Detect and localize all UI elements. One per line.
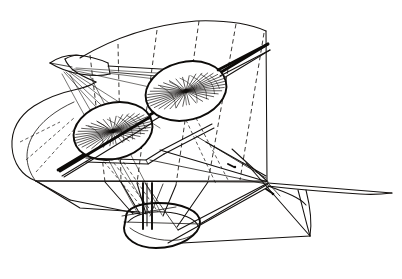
tail-node-dot-b	[234, 166, 236, 168]
flying-machine-perspective-drawing	[0, 0, 402, 279]
drawing-canvas	[0, 0, 402, 279]
tail-node-dot-a	[272, 193, 275, 196]
page-background	[0, 0, 402, 279]
